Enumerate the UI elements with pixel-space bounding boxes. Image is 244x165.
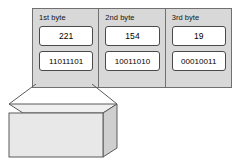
byte-table: 1st byte 221 11011101 2nd byte 154 10011… bbox=[32, 8, 232, 88]
byte-decimal-value: 221 bbox=[39, 26, 93, 46]
byte-column-2: 2nd byte 154 10011010 bbox=[99, 9, 165, 87]
byte-column-label: 2nd byte bbox=[105, 13, 159, 22]
byte-decimal-value: 154 bbox=[105, 26, 159, 46]
block-top-face bbox=[9, 104, 117, 113]
diagram-canvas: 1st byte 221 11011101 2nd byte 154 10011… bbox=[0, 0, 244, 165]
byte-decimal-value: 19 bbox=[172, 26, 226, 46]
byte-binary-value: 11011101 bbox=[39, 51, 93, 71]
byte-binary-value: 00010011 bbox=[172, 51, 226, 71]
connector-line-right bbox=[92, 84, 117, 104]
callout-geometry bbox=[0, 84, 136, 165]
block-side-face bbox=[103, 104, 117, 157]
byte-column-3: 3rd byte 19 00010011 bbox=[166, 9, 231, 87]
byte-column-1: 1st byte 221 11011101 bbox=[33, 9, 99, 87]
byte-column-label: 1st byte bbox=[39, 13, 93, 22]
expanded-byte-callout: 1101 1101 bbox=[0, 84, 136, 165]
byte-column-label: 3rd byte bbox=[172, 13, 226, 22]
connector-line-left bbox=[9, 84, 36, 104]
byte-binary-value: 10011010 bbox=[105, 51, 159, 71]
block-front-face bbox=[9, 113, 103, 157]
